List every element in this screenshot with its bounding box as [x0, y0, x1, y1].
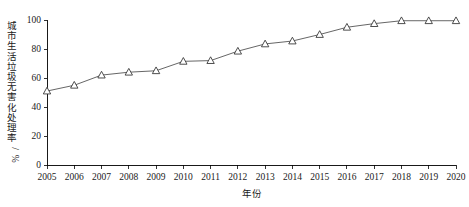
- y-tick-label: 100: [27, 15, 42, 25]
- x-tick-label: 2016: [337, 172, 356, 182]
- series-line: [47, 21, 456, 91]
- x-tick-label: 2018: [392, 172, 411, 182]
- x-tick-label: 2011: [201, 172, 220, 182]
- y-tick-label: 60: [32, 73, 42, 83]
- y-axis-title-char: 害: [7, 91, 17, 102]
- data-point-marker: [71, 81, 78, 88]
- y-axis-title: 城市生活垃圾无害化处理率/%: [7, 21, 20, 163]
- y-axis-title-char: /: [10, 147, 20, 150]
- x-tick-label: 2010: [174, 172, 193, 182]
- x-axis-title: 年份: [242, 188, 262, 199]
- data-point-marker: [398, 17, 405, 24]
- x-tick-label: 2009: [147, 172, 166, 182]
- y-axis-title-char: 市: [7, 30, 17, 41]
- y-axis-title-char: 化: [7, 102, 17, 113]
- x-tick-label: 2020: [447, 172, 466, 182]
- x-tick-label: 2019: [419, 172, 438, 182]
- y-tick-label: 80: [32, 44, 42, 54]
- chart-container: 0204060801002005200620072008200920102011…: [0, 0, 469, 207]
- x-tick-label: 2014: [283, 172, 302, 182]
- data-point-marker: [452, 17, 459, 24]
- x-tick-label: 2012: [228, 172, 247, 182]
- y-axis-title-char: 理: [7, 123, 17, 133]
- x-tick-label: 2005: [38, 172, 57, 182]
- x-tick-label: 2006: [65, 172, 84, 182]
- y-axis-title-char: 率: [7, 132, 17, 143]
- x-tick-label: 2013: [256, 172, 275, 182]
- y-axis-title-char: 垃: [7, 61, 17, 72]
- x-tick-label: 2017: [365, 172, 384, 182]
- y-axis-title-char: 处: [7, 112, 17, 123]
- y-axis-title-char: %: [10, 155, 20, 163]
- x-tick-label: 2007: [92, 172, 111, 182]
- y-axis-title-char: 圾: [7, 71, 17, 82]
- y-tick-label: 0: [36, 160, 41, 170]
- data-point-marker: [425, 17, 432, 24]
- x-tick-label: 2015: [310, 172, 329, 182]
- y-tick-label: 20: [32, 131, 42, 141]
- x-tick-label: 2008: [119, 172, 138, 182]
- y-axis-title-char: 活: [7, 51, 17, 62]
- y-tick-label: 40: [32, 102, 42, 112]
- y-axis-title-char: 城: [7, 21, 17, 31]
- y-axis-title-char: 生: [7, 40, 17, 51]
- line-chart: 0204060801002005200620072008200920102011…: [0, 0, 469, 207]
- y-axis-title-char: 无: [7, 82, 17, 92]
